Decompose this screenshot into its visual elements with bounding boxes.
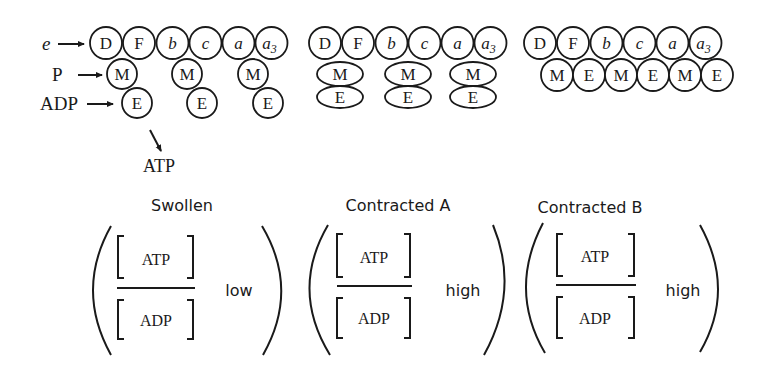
- component-label: b: [168, 34, 177, 53]
- chain-component-F: F: [342, 27, 374, 59]
- swollen-structure: E M E M E M DFbcaa3: [90, 27, 288, 118]
- ratio-level: high: [666, 281, 701, 300]
- atp-bracket-right-icon: [187, 236, 193, 278]
- row-component-E: E: [573, 59, 605, 91]
- contracted-b-title: Contracted B: [538, 198, 643, 217]
- attachment-unit: E M: [317, 62, 363, 108]
- right-paren-icon: [484, 225, 505, 355]
- m-label: M: [179, 65, 194, 84]
- e-label: E: [335, 88, 345, 107]
- component-label: M: [613, 66, 628, 85]
- component-label: M: [677, 66, 692, 85]
- atp-numerator: ATP: [581, 248, 610, 265]
- swollen-ratio: Swollen ATP ADP low: [93, 196, 281, 355]
- component-label: E: [648, 66, 658, 85]
- component-label: c: [421, 34, 429, 53]
- m-label: M: [400, 65, 415, 84]
- row-component-E: E: [701, 59, 733, 91]
- atp-numerator: ATP: [360, 249, 389, 266]
- component-label: D: [100, 34, 112, 53]
- component-label: E: [712, 66, 722, 85]
- component-label: M: [549, 66, 564, 85]
- component-label: F: [134, 34, 143, 53]
- adp-bracket-left-icon: [557, 297, 563, 338]
- contracted-a-chain: DFbcaa3: [309, 27, 507, 59]
- adp-denominator: ADP: [140, 312, 172, 329]
- component-label: c: [202, 34, 210, 53]
- chain-component-D: D: [90, 27, 122, 59]
- row-component-M: M: [669, 59, 701, 91]
- e-label: E: [132, 94, 142, 113]
- attachment-unit: E M: [107, 59, 152, 118]
- contracted-b-structure: MEMEME DFbcaa3: [524, 27, 733, 91]
- component-label: F: [568, 34, 577, 53]
- atp-output-arrow-icon: [150, 130, 161, 151]
- adp-input-label: ADP: [40, 93, 78, 114]
- chain-component-a: a: [223, 27, 255, 59]
- chain-component-a3: a3: [475, 27, 507, 59]
- component-label: D: [534, 34, 546, 53]
- contracted-a-attachments: E M E M E M: [317, 62, 496, 108]
- component-label: c: [636, 34, 644, 53]
- mitochondrial-conformation-diagram: e P ADP ATP E M E M: [0, 0, 767, 374]
- contracted-b-chain: DFbcaa3: [524, 27, 722, 59]
- chain-component-D: D: [524, 27, 556, 59]
- component-label: a: [453, 34, 462, 53]
- contracted-b-ratio: Contracted B ATP ADP high: [526, 198, 718, 353]
- contracted-a-ratio: Contracted A ATP ADP high: [309, 196, 504, 355]
- chain-component-a3: a3: [690, 27, 722, 59]
- chain-component-D: D: [309, 27, 341, 59]
- swollen-chain: DFbcaa3: [90, 27, 288, 59]
- adp-bracket-right-icon: [628, 297, 634, 338]
- atp-bracket-left-icon: [337, 234, 343, 277]
- left-paren-icon: [526, 223, 545, 353]
- right-paren-icon: [700, 225, 718, 352]
- chain-component-a: a: [442, 27, 474, 59]
- atp-output: ATP: [143, 130, 175, 176]
- m-label: M: [465, 65, 480, 84]
- ratio-level: high: [446, 281, 481, 300]
- attachment-unit: E M: [172, 59, 217, 118]
- chain-component-F: F: [123, 27, 155, 59]
- attachment-unit: E M: [385, 62, 431, 108]
- chain-component-c: c: [624, 27, 656, 59]
- atp-bracket-right-icon: [628, 234, 634, 276]
- phosphate-label: P: [52, 64, 63, 85]
- right-paren-icon: [262, 226, 281, 355]
- component-label: a: [668, 34, 677, 53]
- chain-component-b: b: [376, 27, 408, 59]
- atp-numerator: ATP: [142, 251, 171, 268]
- left-paren-icon: [93, 226, 111, 355]
- chain-component-b: b: [157, 27, 189, 59]
- m-label: M: [114, 65, 129, 84]
- swollen-attachments: E M E M E M: [107, 59, 283, 118]
- component-label: D: [319, 34, 331, 53]
- e-label: E: [263, 94, 273, 113]
- m-label: M: [245, 65, 260, 84]
- adp-bracket-right-icon: [404, 298, 410, 338]
- contracted-a-title: Contracted A: [346, 196, 451, 215]
- component-label: E: [584, 66, 594, 85]
- swollen-title: Swollen: [151, 196, 213, 215]
- ratio-level: low: [225, 281, 252, 300]
- atp-bracket-right-icon: [404, 234, 410, 277]
- adp-bracket-right-icon: [187, 300, 193, 339]
- contracted-b-second-row: MEMEME: [541, 59, 733, 91]
- left-paren-icon: [309, 225, 330, 355]
- attachment-unit: E M: [450, 62, 496, 108]
- electron-label: e: [42, 33, 50, 54]
- m-label: M: [332, 65, 347, 84]
- atp-output-label: ATP: [143, 156, 175, 176]
- chain-component-c: c: [409, 27, 441, 59]
- row-component-M: M: [541, 59, 573, 91]
- adp-denominator: ADP: [579, 310, 611, 327]
- chain-component-a: a: [657, 27, 689, 59]
- adp-bracket-left-icon: [337, 298, 343, 338]
- attachment-unit: E M: [238, 59, 283, 118]
- component-label: a: [234, 34, 243, 53]
- row-component-E: E: [637, 59, 669, 91]
- atp-bracket-left-icon: [118, 236, 124, 278]
- adp-denominator: ADP: [358, 310, 390, 327]
- e-label: E: [403, 88, 413, 107]
- e-label: E: [197, 94, 207, 113]
